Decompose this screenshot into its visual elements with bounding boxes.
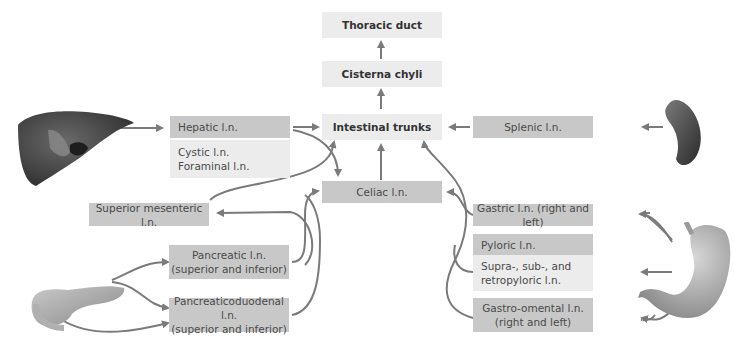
pancreaticoduodenal-node: Pancreaticoduodenal l.n. (superior and i… — [169, 298, 289, 332]
cystic-foraminal-node: Cystic l.n. Foraminal l.n. — [170, 140, 290, 178]
liver-icon — [8, 100, 138, 190]
pancreaticoduodenal-label: Pancreaticoduodenal l.n. — [169, 294, 289, 322]
pancreatic-sublabel: (superior and inferior) — [171, 262, 287, 276]
pancreas-icon — [28, 284, 128, 334]
foraminal-label: Foraminal l.n. — [178, 159, 250, 173]
cystic-label: Cystic l.n. — [178, 145, 229, 159]
spleen-icon — [660, 97, 710, 169]
cisterna-chyli-node: Cisterna chyli — [322, 61, 442, 87]
suprapyloric-label: Supra-, sub-, and — [481, 259, 571, 273]
gastro-omental-label: Gastro-omental l.n. — [482, 301, 584, 315]
hepatic-node: Hepatic l.n. — [170, 116, 290, 138]
thoracic-duct-node: Thoracic duct — [322, 12, 442, 38]
gastro-omental-sublabel: (right and left) — [495, 315, 571, 329]
stomach-icon — [636, 222, 734, 326]
retropyloric-label: retropyloric l.n. — [481, 273, 561, 287]
pancreatic-node: Pancreatic l.n. (superior and inferior) — [169, 245, 289, 279]
gastro-omental-node: Gastro-omental l.n. (right and left) — [473, 298, 593, 332]
supra-sub-retropyloric-node: Supra-, sub-, and retropyloric l.n. — [473, 255, 593, 291]
celiac-node: Celiac l.n. — [322, 181, 442, 203]
pancreaticoduodenal-sublabel: (superior and inferior) — [171, 322, 287, 336]
splenic-node: Splenic l.n. — [473, 116, 593, 138]
superior-mesenteric-node: Superior mesenteric l.n. — [89, 203, 209, 226]
pyloric-node: Pyloric l.n. — [473, 234, 593, 255]
pancreatic-label: Pancreatic l.n. — [192, 248, 266, 262]
intestinal-trunks-node: Intestinal trunks — [322, 114, 442, 140]
gastric-node: Gastric l.n. (right and left) — [473, 204, 593, 226]
